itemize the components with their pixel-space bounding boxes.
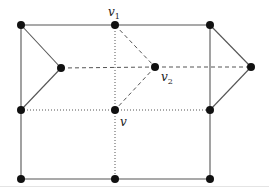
label-v2: v2 [161,71,173,86]
node-br [206,175,214,183]
edge-lm-ml [21,68,61,110]
node-bm [111,175,119,183]
edge-lm-v2 [61,67,155,68]
node-v1 [111,21,119,29]
node-tr [206,21,214,29]
node-rm [247,63,255,71]
node-lm [57,64,65,72]
label-v1: v1 [108,6,120,21]
label-v2-base: v [161,70,168,84]
bottom-divider [0,186,269,187]
label-v-base: v [120,115,127,129]
label-v1-base: v [108,5,115,19]
label-v2-sub: 2 [168,77,173,86]
edge-tr-rm [210,25,251,67]
edge-rm-mr [210,67,251,110]
node-ml [17,106,25,114]
node-v2 [151,63,159,71]
edge-tl-lm [21,25,61,68]
label-v: v [120,116,127,128]
node-v [111,106,119,114]
node-mr [206,106,214,114]
edge-v1-v2 [115,25,155,67]
node-tl [17,21,25,29]
graph-canvas [0,0,269,191]
node-bl [17,175,25,183]
edge-v2-v [115,67,155,110]
label-v1-sub: 1 [115,12,120,21]
